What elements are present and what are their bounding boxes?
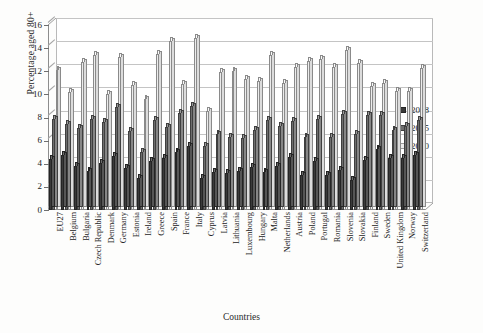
bar-side-face — [52, 156, 55, 207]
bar-side-face — [269, 117, 272, 207]
bar-side-face — [68, 121, 71, 207]
bar-face — [350, 180, 353, 210]
bar-group — [199, 25, 212, 210]
x-axis-label: Hungary — [259, 212, 267, 241]
x-axis-label: Slovakia — [359, 212, 367, 241]
bar-group — [73, 25, 86, 210]
bar-group — [123, 25, 136, 210]
bar-group — [362, 25, 375, 210]
bar-side-face — [143, 149, 146, 207]
bar-side-face — [265, 169, 268, 207]
bar-2008 — [187, 146, 190, 210]
x-axis-label: Finland — [372, 212, 380, 238]
bar-face — [74, 166, 77, 210]
bar-group — [224, 25, 237, 210]
bar-side-face — [77, 163, 80, 207]
bar-2008 — [61, 155, 64, 211]
bar-face — [162, 158, 165, 210]
bar-face — [288, 157, 291, 210]
bar-face — [388, 158, 391, 210]
bar-side-face — [228, 170, 231, 207]
bar-group — [350, 25, 363, 210]
bar-side-face — [156, 117, 159, 207]
bar-face — [250, 167, 253, 210]
bar-2008 — [401, 158, 404, 210]
bar-face — [275, 166, 278, 210]
x-axis-label: Italy — [196, 212, 204, 227]
bar-face — [263, 172, 266, 210]
bar-face — [124, 168, 127, 210]
bar-side-face — [281, 123, 284, 207]
x-axis-label: Germany — [120, 212, 128, 243]
x-axis-label: Netherlands — [284, 212, 292, 252]
bar-face — [112, 156, 115, 210]
x-axis-label: Estonia — [133, 212, 141, 237]
bar-2008 — [87, 171, 90, 210]
bar-face — [99, 163, 102, 210]
bar-2008 — [99, 163, 102, 210]
y-axis-tick-label: 2 — [16, 182, 42, 191]
bar-group — [211, 25, 224, 210]
bar-side-face — [253, 164, 256, 207]
bar-side-face — [165, 155, 168, 207]
bar-group — [161, 25, 174, 210]
bar-face — [325, 175, 328, 210]
y-axis-tick-label: 6 — [16, 136, 42, 145]
bar-2008 — [149, 161, 152, 210]
bar-face — [87, 171, 90, 210]
bar-group — [262, 25, 275, 210]
bar-group — [136, 25, 149, 210]
bar-group — [48, 25, 61, 210]
bar-group — [186, 25, 199, 210]
bar-2008 — [363, 160, 366, 210]
bar-side-face — [316, 158, 319, 207]
bar-group — [375, 25, 388, 210]
bar-face — [212, 172, 215, 210]
bar-group — [61, 25, 74, 210]
bar-face — [376, 149, 379, 210]
bar-face — [338, 170, 341, 210]
bar-side-face — [378, 146, 381, 207]
bar-side-face — [105, 119, 108, 207]
bar-group — [337, 25, 350, 210]
x-axis-label: Sweden — [384, 212, 392, 239]
bar-2008 — [388, 158, 391, 210]
bar-face — [363, 160, 366, 210]
x-axis-label: Austria — [296, 212, 304, 237]
bar-side-face — [206, 143, 209, 207]
bar-side-face — [215, 169, 218, 207]
x-axis-label: Malta — [271, 212, 279, 232]
bar-side-face — [93, 116, 96, 207]
y-axis-tick-label: 14 — [16, 44, 42, 53]
bar-side-face — [231, 134, 234, 207]
x-axis-label: EU27 — [57, 212, 65, 232]
x-axis-label: Lithuania — [233, 212, 241, 244]
bar-2008 — [237, 171, 240, 210]
y-axis-tick-mark — [44, 118, 49, 119]
bar-2008 — [263, 172, 266, 210]
x-axis-label: Cyprus — [208, 212, 216, 236]
bar-side-face — [369, 112, 372, 207]
bar-side-face — [115, 153, 118, 207]
y-axis-tick-label: 0 — [16, 206, 42, 215]
bar-group — [287, 25, 300, 210]
bar-side-face — [131, 128, 134, 207]
bar-2008 — [49, 159, 52, 210]
bar-side-face — [332, 134, 335, 207]
bar-2008 — [300, 175, 303, 210]
bar-side-face — [168, 124, 171, 207]
bar-side-face — [240, 168, 243, 207]
bar-2008 — [74, 166, 77, 210]
bar-group — [299, 25, 312, 210]
bar-face — [149, 161, 152, 210]
bar-group — [274, 25, 287, 210]
y-axis-tick-label: 12 — [16, 67, 42, 76]
bar-side-face — [89, 168, 92, 207]
bar-side-face — [278, 163, 281, 207]
bar-group — [324, 25, 337, 210]
bar-face — [137, 178, 140, 210]
x-axis-label: Norway — [409, 212, 417, 239]
chart-figure: Percentage aged 80+ 0246810121416 EU27Be… — [0, 0, 483, 333]
bar-side-face — [218, 131, 221, 207]
bar-2008 — [112, 156, 115, 210]
